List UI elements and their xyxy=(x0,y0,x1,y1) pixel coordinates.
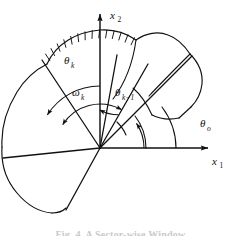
coordinate-axes xyxy=(100,14,208,148)
sector-ray-left xyxy=(3,148,100,158)
theta-o-subscript: o xyxy=(207,124,211,133)
figure-caption: Fig. 4. A Sector-wise Window xyxy=(0,229,241,236)
boundary-arc-left xyxy=(2,64,47,147)
internal-arc-4 xyxy=(133,88,152,115)
figure-root: x 2 x 1 θ k ω k θ k−1 θ o Fig. 4. A S xyxy=(0,0,241,236)
boundary-arc-hatched xyxy=(47,30,136,64)
boundary-arc-bottom xyxy=(52,208,66,213)
region-boundary xyxy=(2,30,202,213)
sector-ray-theta-k xyxy=(42,60,100,148)
x2-axis-label: x 2 xyxy=(109,9,122,24)
theta-k-minus-1-label: θ k−1 xyxy=(115,86,134,102)
x1-label-symbol: x xyxy=(211,155,217,167)
x1-label-subscript: 1 xyxy=(220,161,224,170)
sector-rays xyxy=(3,55,192,210)
sector-ray-lower-left xyxy=(66,148,100,210)
boundary-arc-upper xyxy=(136,33,190,54)
theta-o-symbol: θ xyxy=(200,117,206,129)
internal-arc-5 xyxy=(162,107,176,148)
internal-arc-3 xyxy=(152,115,179,119)
theta-k-label: θ k xyxy=(64,54,75,70)
theta-k-symbol: θ xyxy=(64,54,70,66)
theta-k-subscript: k xyxy=(71,61,75,70)
boundary-arc-right xyxy=(190,54,202,107)
geometry-diagram: x 2 x 1 θ k ω k θ k−1 θ o xyxy=(0,0,241,236)
theta-o-label: θ o xyxy=(200,117,211,133)
arc-theta-k-minus-1 xyxy=(100,110,118,115)
arc-theta-o xyxy=(137,123,145,148)
hatch-ticks xyxy=(46,30,135,61)
boundary-arc-lower-right xyxy=(179,107,191,118)
x2-label-subscript: 2 xyxy=(118,15,122,24)
omega-k-subscript: k xyxy=(81,93,85,102)
x1-axis-label: x 1 xyxy=(211,155,224,170)
theta-k-minus-1-subscript: k−1 xyxy=(122,93,134,102)
theta-k-minus-1-symbol: θ xyxy=(115,86,121,98)
internal-arc-2 xyxy=(149,54,190,96)
x2-label-symbol: x xyxy=(109,9,115,21)
omega-k-symbol: ω xyxy=(72,86,80,98)
